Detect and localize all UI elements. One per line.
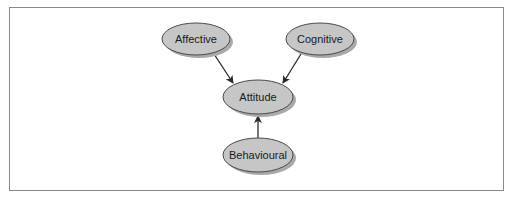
edge-cognitive-to-attitude: [283, 54, 301, 83]
node-label-behavioural: Behavioural: [229, 149, 287, 161]
node-behavioural[interactable]: Behavioural: [223, 138, 296, 175]
node-label-attitude: Attitude: [239, 91, 276, 103]
edge-affective-to-attitude: [214, 54, 233, 83]
node-label-cognitive: Cognitive: [297, 33, 343, 45]
node-attitude[interactable]: Attitude: [223, 80, 296, 117]
attitude-components-diagram: Affective Cognitive Attitude Behavioural: [0, 0, 513, 199]
node-affective[interactable]: Affective: [162, 23, 233, 58]
node-cognitive[interactable]: Cognitive: [286, 23, 357, 58]
node-label-affective: Affective: [175, 33, 217, 45]
